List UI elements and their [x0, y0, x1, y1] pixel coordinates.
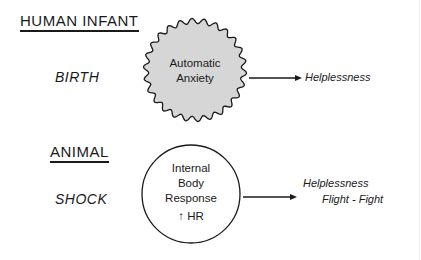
outcome-helplessness: Helplessness [305, 71, 370, 83]
event-birth: BIRTH [55, 69, 99, 85]
diagram-canvas: HUMAN INFANT BIRTH Automatic Anxiety Hel… [0, 0, 421, 260]
heading-human-infant: HUMAN INFANT [20, 13, 139, 32]
node-line: Response [151, 191, 231, 206]
node-internal-body-response: Internal Body Response ↑ HR [151, 161, 231, 224]
arrow-to-helplessness-fight-icon [243, 194, 297, 200]
node-line-hr: ↑ HR [151, 209, 231, 224]
event-shock: SHOCK [55, 191, 107, 207]
node-line: Internal [151, 161, 231, 176]
outcome-helplessness-2: Helplessness [303, 177, 368, 189]
node-line: Automatic [155, 56, 235, 71]
arrow-to-helplessness-icon [249, 75, 302, 81]
node-automatic-anxiety: Automatic Anxiety [155, 56, 235, 86]
page-edge [419, 0, 420, 260]
outcome-flight-fight: Flight - Fight [322, 193, 383, 205]
node-line: Body [151, 176, 231, 191]
node-line: Anxiety [155, 71, 235, 86]
heading-animal: ANIMAL [50, 144, 109, 163]
